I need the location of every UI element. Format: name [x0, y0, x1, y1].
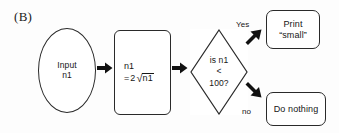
down-right-arrow-icon	[243, 82, 263, 102]
flowchart-figure: (B) Input n1 n1 =2√n1 is n1 < 100? Yes	[0, 0, 339, 133]
panel-label: (B)	[14, 9, 32, 25]
flowchart-node-print-small-label: Print “small”	[279, 19, 307, 39]
flowchart-node-do-nothing-label: Do nothing	[274, 104, 319, 114]
formula-radicand: n1	[142, 73, 154, 84]
flowchart-node-input: Input n1	[38, 28, 96, 113]
up-right-arrow-icon	[243, 25, 263, 45]
flowchart-node-process-label: n1 =2√n1	[124, 50, 154, 95]
formula-line-1: n1	[124, 61, 134, 71]
edge-label-no: no	[242, 107, 251, 116]
flowchart-node-print-small: Print “small”	[266, 10, 320, 49]
right-arrow-icon	[97, 62, 113, 74]
formula-line-2: =2√n1	[124, 73, 154, 84]
flowchart-node-decision: is n1 < 100?	[190, 29, 248, 115]
flowchart-node-do-nothing: Do nothing	[266, 92, 326, 126]
flowchart-node-decision-label: is n1 < 100?	[209, 55, 228, 89]
flowchart-node-process: n1 =2√n1	[114, 30, 171, 115]
radical-icon: √n1	[135, 73, 153, 84]
flowchart-node-input-label: Input n1	[57, 61, 76, 80]
right-arrow-icon	[172, 62, 188, 74]
formula-equals: =	[124, 73, 129, 84]
